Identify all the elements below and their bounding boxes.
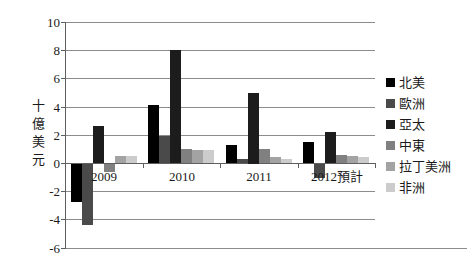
- legend-label: 北美: [399, 76, 425, 89]
- legend-item-拉丁美洲: 拉丁美洲: [386, 156, 451, 177]
- legend-swatch: [386, 99, 395, 108]
- bar-中東-2010: [181, 149, 192, 163]
- bar-中東-2012預計: [336, 155, 347, 163]
- y-axis-tick-label: -4: [26, 213, 60, 226]
- bar-拉丁美洲-2012預計: [347, 156, 358, 163]
- x-axis-label: 2009: [65, 170, 143, 184]
- bar-非洲-2010: [203, 150, 214, 163]
- y-axis-tick-label: -6: [26, 242, 60, 255]
- x-axis-label: 2010: [143, 170, 221, 184]
- legend: 北美歐洲亞太中東拉丁美洲非洲: [386, 72, 451, 198]
- gridline: [65, 78, 375, 79]
- bar-亞太-2009: [93, 126, 104, 163]
- legend-label: 非洲: [399, 181, 425, 194]
- bar-北美-2011: [226, 145, 237, 163]
- gridline: [65, 191, 375, 192]
- legend-label: 亞太: [399, 118, 425, 131]
- legend-item-非洲: 非洲: [386, 177, 451, 198]
- bar-亞太-2011: [248, 93, 259, 164]
- gridline: [65, 248, 467, 249]
- legend-swatch: [386, 183, 395, 192]
- legend-item-北美: 北美: [386, 72, 451, 93]
- y-axis-tick-label: 8: [26, 44, 60, 57]
- legend-item-亞太: 亞太: [386, 114, 451, 135]
- bar-亞太-2012預計: [325, 132, 336, 163]
- y-axis-tick-label: 6: [26, 72, 60, 85]
- bar-chart: 1086420-2-4-6 2009201020112012預計 十億美元 北美…: [0, 0, 472, 268]
- x-axis-label: 2011: [220, 170, 298, 184]
- y-axis-tick-label: -2: [26, 185, 60, 198]
- legend-swatch: [386, 141, 395, 150]
- bar-拉丁美洲-2009: [115, 156, 126, 163]
- bar-非洲-2009: [126, 156, 137, 163]
- gridline: [65, 50, 375, 51]
- bar-非洲-2011: [281, 159, 292, 163]
- legend-label: 拉丁美洲: [399, 160, 451, 173]
- bar-拉丁美洲-2010: [192, 150, 203, 163]
- y-axis-tick-label: 10: [26, 16, 60, 29]
- x-axis-label: 2012預計: [298, 170, 376, 184]
- bar-歐洲-2011: [237, 159, 248, 163]
- bar-非洲-2012預計: [358, 157, 369, 163]
- legend-label: 歐洲: [399, 97, 425, 110]
- legend-swatch: [386, 78, 395, 87]
- bar-北美-2012預計: [303, 142, 314, 163]
- bar-中東-2011: [259, 149, 270, 163]
- y-axis-title: 十億美元: [30, 97, 46, 169]
- gridline: [65, 219, 375, 220]
- bar-歐洲-2010: [159, 136, 170, 163]
- legend-label: 中東: [399, 139, 425, 152]
- legend-swatch: [386, 120, 395, 129]
- bar-亞太-2010: [170, 50, 181, 163]
- bar-北美-2010: [148, 105, 159, 163]
- legend-item-中東: 中東: [386, 135, 451, 156]
- legend-swatch: [386, 162, 395, 171]
- gridline: [65, 107, 375, 108]
- gridline: [65, 22, 375, 23]
- bar-拉丁美洲-2011: [270, 157, 281, 163]
- legend-item-歐洲: 歐洲: [386, 93, 451, 114]
